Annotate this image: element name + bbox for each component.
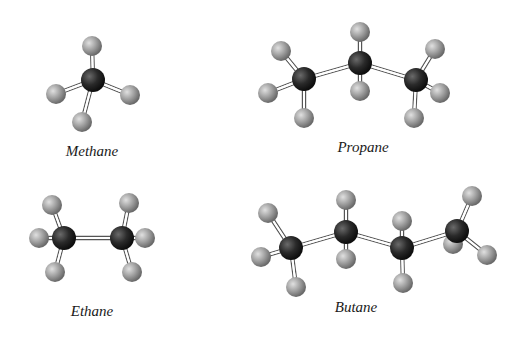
- molecule-methane: [46, 36, 140, 132]
- hydrogen-atom: [271, 41, 291, 61]
- carbon-atom: [404, 68, 428, 92]
- hydrogen-atom: [42, 195, 62, 215]
- hydrogen-atom: [392, 211, 412, 231]
- label-butane: Butane: [335, 299, 378, 315]
- molecule-butane: [251, 186, 497, 297]
- carbon-atom: [279, 236, 303, 260]
- hydrogen-atom: [258, 83, 278, 103]
- carbon-atom: [334, 220, 358, 244]
- hydrogen-atom: [393, 273, 413, 293]
- hydrogen-atom: [135, 228, 155, 248]
- hydrogen-atom: [119, 193, 139, 213]
- hydrogen-atom: [350, 22, 370, 42]
- hydrogen-atom: [336, 190, 356, 210]
- label-methane: Methane: [65, 143, 119, 159]
- hydrogen-atom: [336, 249, 356, 269]
- hydrogen-atom: [72, 112, 92, 132]
- carbon-atom: [110, 226, 134, 250]
- hydrogen-atom: [462, 186, 482, 206]
- hydrogen-atom: [120, 85, 140, 105]
- hydrogen-atom: [430, 83, 450, 103]
- hydrogen-atom: [294, 108, 314, 128]
- hydrogen-atom: [45, 262, 65, 282]
- carbon-atom: [348, 51, 372, 75]
- hydrogen-atom: [258, 203, 278, 223]
- hydrogen-atom: [425, 39, 445, 59]
- carbon-atom: [52, 226, 76, 250]
- carbon-atom: [390, 236, 414, 260]
- label-ethane: Ethane: [70, 303, 114, 319]
- molecule-propane: [258, 22, 450, 128]
- molecule-ethane: [29, 193, 155, 282]
- label-propane: Propane: [336, 139, 388, 155]
- hydrogen-atom: [29, 228, 49, 248]
- carbon-atom: [445, 219, 469, 243]
- hydrogen-atom: [350, 81, 370, 101]
- hydrogen-atom: [286, 277, 306, 297]
- hydrogen-atom: [477, 245, 497, 265]
- carbon-atom: [81, 68, 105, 92]
- hydrogen-atom: [46, 84, 66, 104]
- hydrogen-atom: [82, 36, 102, 56]
- carbon-atom: [292, 67, 316, 91]
- hydrogen-atom: [251, 247, 271, 267]
- alkane-models-figure: Methane Propane Ethane Butane: [0, 0, 516, 340]
- hydrogen-atom: [122, 262, 142, 282]
- hydrogen-atom: [404, 108, 424, 128]
